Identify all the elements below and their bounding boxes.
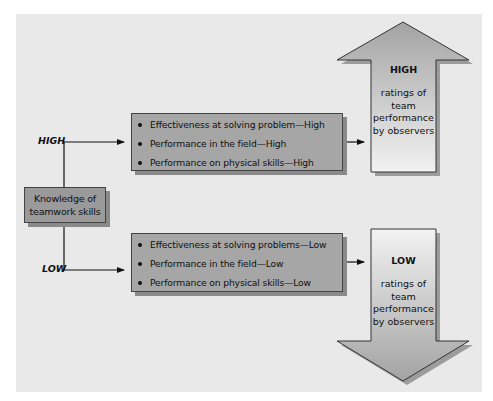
description-line: ratings of (371, 87, 436, 100)
result-high-description: ratings of team performance by observers (371, 87, 436, 137)
description-line: by observers (371, 125, 436, 138)
outcomes-box-low: Effectiveness at solving problems—Low Pe… (131, 233, 343, 292)
outcomes-box-high: Effectiveness at solving problem—High Pe… (131, 113, 343, 171)
result-high-label: HIGH ratings of team performance by obse… (371, 64, 436, 137)
result-low-label: LOW ratings of team performance by obser… (371, 255, 436, 328)
source-node-line-2: teamwork skills (25, 205, 105, 218)
outcome-item: Performance in the field—High (132, 134, 342, 153)
branch-connector-low (64, 223, 124, 270)
result-low-title: LOW (371, 255, 436, 266)
description-line: ratings of (371, 278, 436, 291)
description-line: team (371, 291, 436, 304)
description-line: team (371, 100, 436, 113)
outcome-item: Performance in the field—Low (132, 254, 342, 273)
outcome-item: Effectiveness at solving problems—Low (132, 235, 342, 254)
description-line: performance (371, 112, 436, 125)
branch-label-low: LOW (42, 263, 66, 274)
branch-label-high: HIGH (38, 135, 65, 146)
description-line: performance (371, 303, 436, 316)
outcome-item: Effectiveness at solving problem—High (132, 115, 342, 134)
outcome-item: Performance on physical skills—High (132, 153, 342, 172)
outcome-item: Performance on physical skills—Low (132, 273, 342, 292)
result-low-description: ratings of team performance by observers (371, 278, 436, 328)
branch-connector-high (64, 142, 124, 187)
knowledge-of-teamwork-skills-node: Knowledge of teamwork skills (24, 187, 106, 223)
source-node-line-1: Knowledge of (25, 192, 105, 205)
description-line: by observers (371, 316, 436, 329)
result-high-title: HIGH (371, 64, 436, 75)
